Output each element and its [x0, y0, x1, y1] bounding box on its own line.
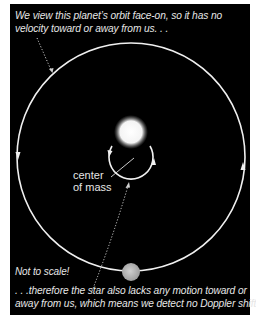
- bottom-caption-line2: away from us, which means we detect no D…: [15, 297, 256, 310]
- bottom-caption-line1: . . .therefore the star also lacks any m…: [15, 284, 256, 297]
- bottom-caption: . . .therefore the star also lacks any m…: [15, 284, 256, 310]
- star: [114, 115, 148, 149]
- bottom-pointer-arrowhead-icon: [126, 182, 131, 188]
- planet: [122, 263, 140, 281]
- bottom-dotted-pointer: [92, 186, 128, 291]
- center-of-mass-line2: of mass: [73, 181, 112, 193]
- top-caption-line2: velocity toward or away from us. . .: [15, 22, 222, 35]
- center-of-mass-label: center of mass: [73, 169, 112, 193]
- top-pointer-arrowhead-icon: [49, 68, 54, 73]
- scale-note: Not to scale!: [15, 265, 69, 278]
- top-dotted-pointer: [37, 38, 51, 70]
- top-caption-line1: We view this planet’s orbit face-on, so …: [15, 9, 222, 22]
- center-of-mass-pointer: [111, 158, 134, 177]
- top-caption: We view this planet’s orbit face-on, so …: [15, 9, 222, 35]
- center-of-mass-line1: center: [73, 169, 112, 181]
- planet-orbit: [17, 43, 245, 271]
- star-orbit: [109, 146, 153, 179]
